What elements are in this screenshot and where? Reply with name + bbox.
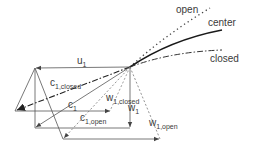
label-c1: c1: [68, 99, 77, 112]
label-w1-open: w1,open: [148, 117, 178, 131]
curve-open: [130, 8, 210, 67]
label-u1: u1: [77, 55, 87, 68]
label-c1-open: c1,open: [80, 112, 107, 126]
label-center: center: [208, 17, 236, 28]
label-closed: closed: [210, 53, 239, 64]
label-c1-closed: c1,closed: [50, 77, 81, 90]
curve-center: [130, 30, 222, 67]
label-open: open: [176, 4, 198, 15]
velocity-triangle-diagram: open center closed u1 c1,closed c1 c1,op…: [0, 0, 255, 153]
